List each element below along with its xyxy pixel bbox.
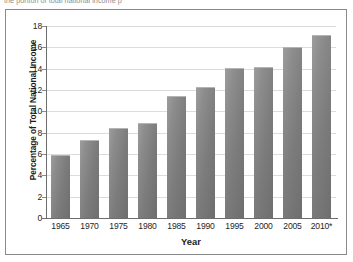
x-axis-tick-label: 1980 [133,221,162,231]
y-axis-tick-label: 16 [24,42,42,52]
x-axis-line [42,218,338,219]
bar [254,67,274,218]
bar-series [46,26,336,218]
bar [109,128,129,218]
x-axis-tick-label: 1965 [46,221,75,231]
bar [283,47,303,218]
bar [51,155,71,218]
x-axis-tick-label: 2010* [307,221,336,231]
bar [225,68,245,218]
chart-figure-frame: Percentage of Total National Income 0246… [5,9,347,255]
bar [196,87,216,218]
x-axis-tick-label: 1975 [104,221,133,231]
y-axis-tick-label: 0 [24,213,42,223]
bar [312,35,332,218]
x-axis-tick-label: 1985 [162,221,191,231]
x-axis-tick-label: 1995 [220,221,249,231]
cropped-caption-strip: the portion of total national income p [0,0,353,8]
bar [138,123,158,218]
y-axis-tick-labels: 024681012141618 [24,10,42,256]
caption-text: the portion of total national income p [4,0,122,5]
y-axis-tick-label: 6 [24,149,42,159]
bar [80,140,100,218]
x-axis-tick-label: 1990 [191,221,220,231]
y-axis-tick-label: 14 [24,64,42,74]
x-axis-title: Year [46,236,336,247]
bar [167,96,187,218]
y-axis-tick-label: 10 [24,106,42,116]
y-axis-tick-label: 4 [24,170,42,180]
x-axis-tick-label: 1970 [75,221,104,231]
x-axis-tick-label: 2000 [249,221,278,231]
bar-chart: Percentage of Total National Income 0246… [6,10,348,256]
y-axis-tick-label: 18 [24,21,42,31]
x-axis-tick-label: 2005 [278,221,307,231]
y-axis-tick-label: 12 [24,85,42,95]
y-axis-tick-label: 8 [24,128,42,138]
y-axis-tick-label: 2 [24,192,42,202]
x-axis-tick-labels: 1965197019751980198519901995200020052010… [46,221,336,237]
